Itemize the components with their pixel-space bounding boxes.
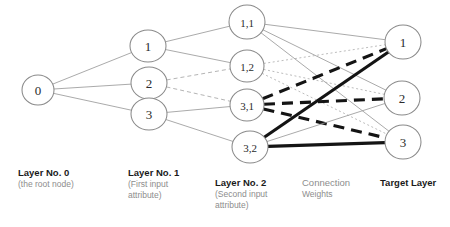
caption-title: Connection <box>302 177 350 189</box>
caption-subtitle: Weights <box>302 189 350 200</box>
caption-connection-weights: ConnectionWeights <box>302 177 350 200</box>
node-layer1-1[interactable]: 1 <box>130 30 166 62</box>
node-label: 1,2 <box>240 61 254 73</box>
node-label: 3,2 <box>243 142 257 154</box>
caption-layer-2: Layer No. 2(Second inputattribute) <box>215 177 267 210</box>
node-layer2-3-1[interactable]: 3,1 <box>230 89 264 121</box>
node-label: 3,1 <box>240 100 254 112</box>
edge-n0-l1c <box>54 93 132 110</box>
edge-l1c-l2d <box>166 120 233 142</box>
edge-l1c-l2c <box>167 107 230 113</box>
node-label: 2 <box>146 76 153 91</box>
caption-title: Layer No. 0 <box>18 167 74 179</box>
caption-subtitle: (First input <box>128 179 179 190</box>
node-label: 1 <box>400 35 407 50</box>
edge-l1b-l2c <box>166 87 230 101</box>
node-label: 1,1 <box>240 17 254 29</box>
node-label: 1 <box>145 39 152 54</box>
caption-title: Layer No. 1 <box>128 167 179 179</box>
caption-target-layer: Target Layer <box>380 177 436 189</box>
caption-layer-1: Layer No. 1(First inputattribute) <box>128 167 179 200</box>
edges-group <box>53 24 389 146</box>
node-label: 0 <box>35 83 42 98</box>
edge-l2d-t3 <box>268 143 385 147</box>
edge-n0-l1a <box>53 53 132 85</box>
caption-title: Target Layer <box>380 177 436 189</box>
edge-l2a-t1 <box>265 24 385 39</box>
network-diagram: 01231,11,23,13,2123 Layer No. 0(the root… <box>0 0 450 227</box>
caption-layer-0: Layer No. 0(the root node) <box>18 167 74 190</box>
edge-l1a-l2b <box>166 50 231 63</box>
nodes-group: 01231,11,23,13,2123 <box>22 5 421 163</box>
node-label: 3 <box>400 135 407 150</box>
node-label: 2 <box>399 91 406 106</box>
node-layer2-1-2[interactable]: 1,2 <box>230 50 264 82</box>
caption-subtitle: (the root node) <box>18 179 74 190</box>
node-layer1-2[interactable]: 2 <box>131 67 167 99</box>
node-layer2-3-2[interactable]: 3,2 <box>232 131 268 163</box>
node-label: 3 <box>146 107 153 122</box>
edge-l2b-t1 <box>264 45 385 64</box>
edge-l1a-l2a <box>165 26 229 42</box>
edge-l2c-t1 <box>263 49 387 99</box>
edge-l1b-l2b <box>167 69 231 80</box>
caption-title: Layer No. 2 <box>215 177 267 189</box>
caption-subtitle: (Second input <box>215 189 267 200</box>
node-layer0-0[interactable]: 0 <box>22 75 54 105</box>
node-target-3[interactable]: 3 <box>385 125 421 159</box>
node-layer2-1-1[interactable]: 1,1 <box>229 5 265 39</box>
node-target-1[interactable]: 1 <box>385 25 421 59</box>
caption-subtitle-2: attribute) <box>128 190 179 201</box>
caption-subtitle-2: attribute) <box>215 200 267 211</box>
node-target-2[interactable]: 2 <box>384 81 420 115</box>
edge-n0-l1b <box>54 84 131 89</box>
node-layer1-3[interactable]: 3 <box>131 98 167 130</box>
